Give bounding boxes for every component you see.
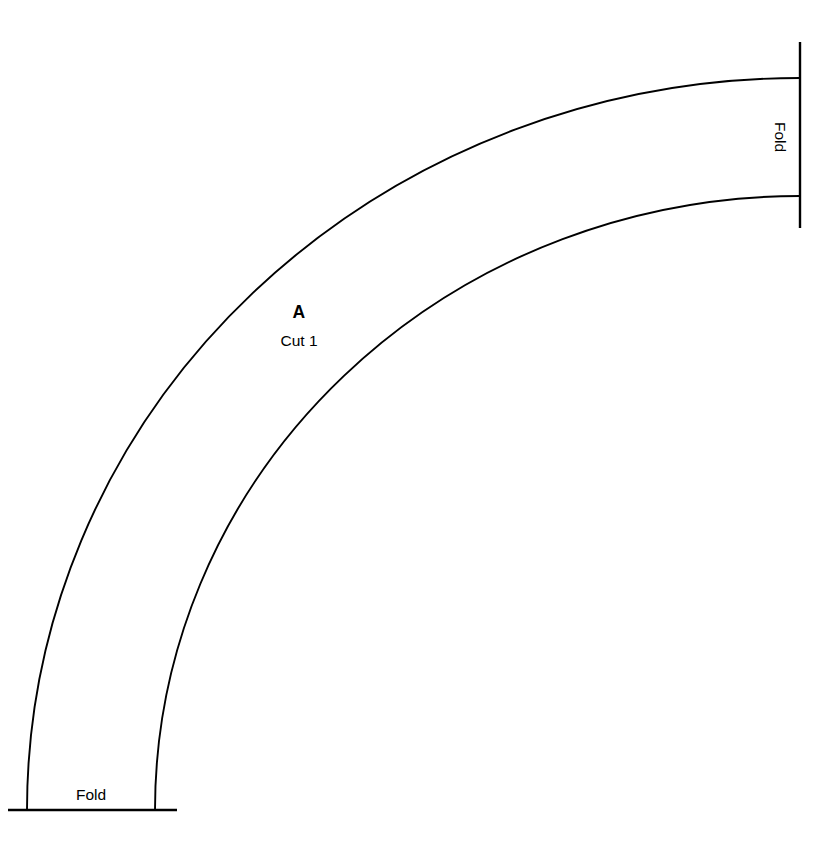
pattern-canvas: A Cut 1 Fold Fold bbox=[0, 0, 831, 864]
piece-letter-label: A bbox=[293, 304, 306, 322]
inner-cutting-line bbox=[155, 196, 800, 810]
outer-cutting-line bbox=[27, 78, 800, 810]
fold-label-bottom: Fold bbox=[76, 787, 106, 803]
fold-label-right: Fold bbox=[772, 122, 788, 152]
pattern-drawing bbox=[0, 0, 831, 864]
cut-instruction-label: Cut 1 bbox=[280, 333, 317, 349]
